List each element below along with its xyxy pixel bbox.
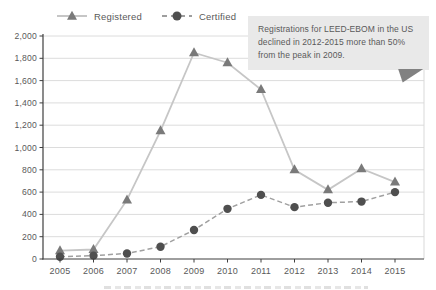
certified-marker (290, 203, 298, 211)
y-axis-label: 1,800 (14, 53, 37, 63)
triangle-marker-icon (67, 11, 77, 20)
registered-marker (323, 184, 333, 193)
callout-text: Registrations for LEED-EBOM in the US de… (258, 24, 413, 60)
x-axis-label: 2013 (318, 266, 339, 276)
certified-marker (391, 188, 399, 196)
x-axis-label: 2008 (150, 266, 171, 276)
x-axis-label: 2015 (385, 266, 406, 276)
callout-note: Registrations for LEED-EBOM in the US de… (248, 16, 429, 70)
certified-marker (324, 198, 332, 206)
registered-marker (256, 84, 266, 93)
registered-marker (156, 125, 166, 134)
registered-series-line (60, 53, 395, 251)
registered-marker (122, 194, 132, 203)
circle-marker-icon (172, 12, 181, 21)
x-axis-label: 2014 (351, 266, 372, 276)
legend-item-registered: Registered (57, 11, 142, 22)
y-axis-label: 0 (32, 254, 37, 264)
certified-marker (123, 249, 131, 257)
x-axis-label: 2011 (251, 266, 271, 276)
legend-label-registered: Registered (94, 11, 142, 22)
registered-marker (189, 47, 199, 56)
certified-marker (357, 197, 365, 205)
registered-marker (290, 164, 300, 173)
cropped-caption-remnant (104, 286, 368, 289)
x-axis-label: 2005 (50, 266, 71, 276)
x-axis-label: 2012 (284, 266, 305, 276)
x-axis-label: 2009 (184, 266, 205, 276)
y-axis-label: 2,000 (14, 31, 37, 41)
x-axis-label: 2010 (217, 266, 238, 276)
registered-line-sample (57, 15, 87, 17)
y-axis-label: 600 (22, 187, 37, 197)
certified-marker (190, 226, 198, 234)
y-axis-label: 1,600 (14, 76, 37, 86)
legend-label-certified: Certified (199, 11, 236, 22)
y-axis-label: 200 (22, 232, 37, 242)
y-axis-label: 1,000 (14, 143, 37, 153)
y-axis-label: 800 (22, 165, 37, 175)
registered-marker (357, 163, 367, 172)
certified-marker (257, 191, 265, 199)
certified-marker (156, 243, 164, 251)
y-axis-label: 400 (22, 209, 37, 219)
certified-line-sample (162, 15, 192, 17)
certified-marker (223, 205, 231, 213)
y-axis-label: 1,400 (14, 98, 37, 108)
chart-figure: Registered Certified Registrations for L… (0, 0, 436, 290)
x-axis-label: 2007 (117, 266, 138, 276)
x-axis-label: 2006 (83, 266, 104, 276)
y-axis-label: 1,200 (14, 120, 37, 130)
legend-item-certified: Certified (162, 11, 236, 22)
legend: Registered Certified (57, 8, 236, 24)
